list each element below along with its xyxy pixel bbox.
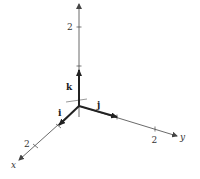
y-tick-label: 2 xyxy=(152,135,158,145)
vector-k-label: k xyxy=(66,82,73,92)
origin-cross-line xyxy=(66,99,87,102)
y-axis: 2 y xyxy=(79,106,186,145)
coordinate-diagram: 2 2 y 2 x k j i xyxy=(0,0,200,179)
vector-i: i xyxy=(58,106,79,125)
x-axis-label: x xyxy=(11,160,16,170)
vector-j: j xyxy=(79,100,117,117)
z-tick-label: 2 xyxy=(67,22,73,32)
y-axis-label: y xyxy=(179,132,186,142)
x-tick-label: 2 xyxy=(24,139,30,149)
x-tick-2 xyxy=(33,144,38,148)
vector-j-label: j xyxy=(96,100,100,110)
vector-i-label: i xyxy=(58,108,62,118)
